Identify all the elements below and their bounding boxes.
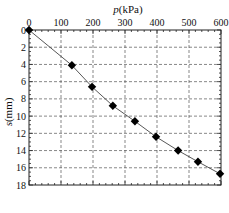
x-axis-title-unit: (kPa) [119,3,143,16]
x-axis-title: p(kPa) [112,3,143,16]
data-point-diamond [131,117,139,125]
y-tick-label: 8 [21,93,26,104]
data-point-diamond [194,158,202,166]
p-s-chart: 0100200300400500600 024681012141618 p(kP… [0,0,229,213]
x-tick-label: 600 [214,17,229,28]
y-tick-label: 16 [16,162,26,173]
y-axis-ticks: 024681012141618 [16,25,221,191]
x-tick-label: 300 [118,17,133,28]
y-tick-label: 10 [16,111,26,122]
y-axis-title-unit: (mm) [2,97,15,122]
x-tick-label: 400 [150,17,165,28]
y-tick-label: 4 [21,59,26,70]
y-tick-label: 14 [16,145,26,156]
data-point-diamond [174,146,182,154]
y-axis-title: s(mm) [2,97,15,126]
x-tick-label: 100 [54,17,69,28]
y-tick-label: 12 [16,128,26,139]
data-point-diamond [216,170,224,178]
data-point-diamond [152,133,160,141]
x-tick-label: 200 [86,17,101,28]
x-tick-label: 500 [182,17,197,28]
data-series [25,26,224,178]
y-tick-label: 18 [16,180,26,191]
y-tick-label: 2 [21,42,26,53]
y-tick-label: 6 [21,76,26,87]
series-line [29,30,220,174]
